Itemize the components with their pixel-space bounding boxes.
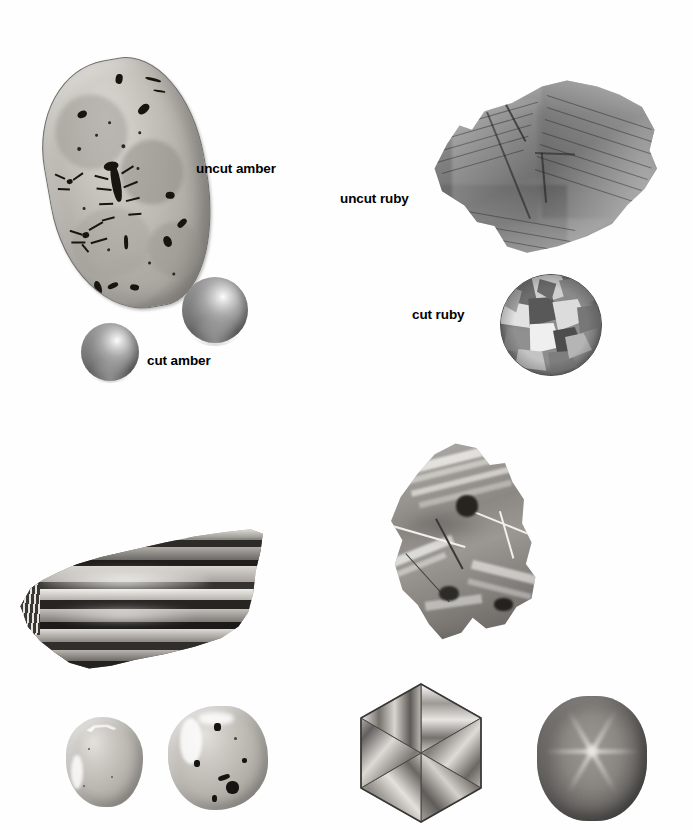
- cut-turquoise-cabochon-right: [168, 706, 268, 810]
- hexagon-gem-svg: [356, 682, 486, 824]
- gemstone-figure: uncut amber cut amber: [0, 0, 693, 830]
- panel-sapphire: uncut sapphire: [346, 415, 693, 830]
- label-uncut-amber: uncut amber: [196, 162, 276, 176]
- cut-sapphire-hexagon: [356, 682, 486, 824]
- uncut-turquoise-specimen: [18, 525, 263, 670]
- panel-turquoise: uncut turquoise cut turquoise: [0, 415, 347, 830]
- label-cut-amber: cut amber: [147, 354, 211, 368]
- cut-turquoise-cabochon-left: [66, 717, 143, 807]
- label-cut-ruby: cut ruby: [412, 308, 464, 322]
- cut-amber-sphere-large: [182, 277, 248, 343]
- cut-sapphire-star-cabochon: [537, 696, 647, 821]
- cut-ruby-specimen: [500, 274, 602, 376]
- uncut-sapphire-specimen: [372, 435, 562, 650]
- panel-ruby: uncut ruby cut ruby: [346, 0, 693, 415]
- cut-amber-sphere-small: [81, 323, 139, 381]
- label-uncut-ruby: uncut ruby: [340, 192, 409, 206]
- panel-amber: uncut amber cut amber: [0, 0, 347, 415]
- uncut-ruby-specimen: [412, 62, 662, 267]
